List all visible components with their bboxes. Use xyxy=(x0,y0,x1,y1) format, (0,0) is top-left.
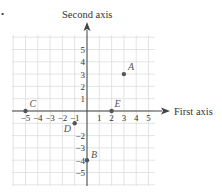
y-tick-label: −3 xyxy=(75,143,85,153)
x-tick-label: −3 xyxy=(45,113,55,123)
x-tick-label: −2 xyxy=(58,113,68,123)
point-label: E xyxy=(114,98,121,109)
point-label: C xyxy=(30,98,37,109)
x-tick-label: −5 xyxy=(21,113,31,123)
y-tick-label: −2 xyxy=(75,131,85,141)
bullet-marker: • xyxy=(1,9,4,19)
y-tick-label: 5 xyxy=(81,45,86,55)
y-tick-label: 4 xyxy=(81,57,86,67)
point-marker xyxy=(85,158,89,162)
y-tick-label: 1 xyxy=(81,94,86,104)
y-tick-label: −5 xyxy=(75,168,85,178)
x-tick-label: −4 xyxy=(33,113,43,123)
point-marker xyxy=(109,109,113,113)
x-tick-label: 3 xyxy=(122,113,127,123)
point-label: B xyxy=(91,149,97,160)
first-axis-label: First axis xyxy=(174,106,213,117)
second-axis-arrow-icon xyxy=(84,22,91,31)
x-tick-labels: −5−4−3−2−112345 xyxy=(21,113,152,123)
x-tick-label: 5 xyxy=(146,113,151,123)
first-axis-arrow-icon xyxy=(161,108,170,115)
y-tick-label: 2 xyxy=(81,82,86,92)
point-marker xyxy=(73,121,77,125)
x-tick-label: 2 xyxy=(109,113,114,123)
point-label: A xyxy=(127,61,135,72)
point-marker xyxy=(122,72,126,76)
point-marker xyxy=(23,109,27,113)
x-tick-label: 4 xyxy=(134,113,139,123)
point-label: D xyxy=(63,123,72,134)
second-axis-label: Second axis xyxy=(62,9,112,20)
x-tick-label: 1 xyxy=(97,113,102,123)
coordinate-plane: −5−4−3−2−112345 54321−2−3−4−5 ABCDE Firs… xyxy=(0,0,222,193)
y-tick-label: 3 xyxy=(81,70,86,80)
y-tick-label: −4 xyxy=(75,156,85,166)
